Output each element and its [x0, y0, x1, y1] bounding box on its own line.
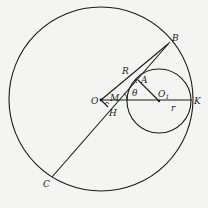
- label-r-small: r: [171, 103, 176, 113]
- right-angle-h: [105, 102, 109, 104]
- label-m: M: [109, 93, 120, 103]
- label-o1: O1: [158, 89, 169, 100]
- label-r: R: [121, 66, 129, 76]
- label-h: H: [108, 108, 117, 118]
- perpendicular-oh: [101, 100, 108, 107]
- label-theta: θ: [132, 88, 138, 98]
- geometry-figure: B C R A O M θ O1 K r H: [0, 0, 208, 208]
- label-k: K: [193, 96, 202, 106]
- point-o: [100, 99, 103, 102]
- label-c: C: [43, 179, 50, 189]
- label-a: A: [140, 75, 148, 85]
- label-b: B: [171, 33, 179, 43]
- diagram-canvas: B C R A O M θ O1 K r H: [0, 0, 208, 208]
- point-o1: [158, 100, 160, 102]
- label-o: O: [91, 96, 99, 106]
